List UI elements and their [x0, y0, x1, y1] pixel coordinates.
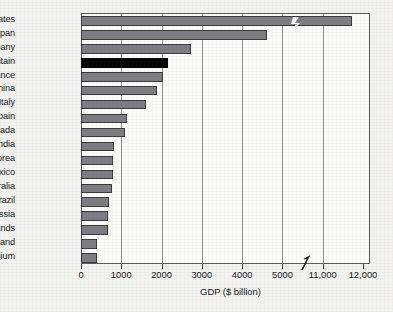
axis-break-zigzag-icon — [296, 255, 316, 271]
axis-break-symbol — [296, 255, 316, 275]
x-axis-ticks-group: 01000200030004000500011,00012,000 — [0, 0, 393, 312]
x-axis-title: GDP ($ billion) — [0, 286, 393, 297]
x-tick-label-12000: 12,000 — [333, 270, 393, 279]
gdp-bar-chart: United StatesJapanGermanyBritainFranceCh… — [0, 0, 393, 312]
x-axis-title-text: GDP ($ billion) — [200, 286, 261, 297]
